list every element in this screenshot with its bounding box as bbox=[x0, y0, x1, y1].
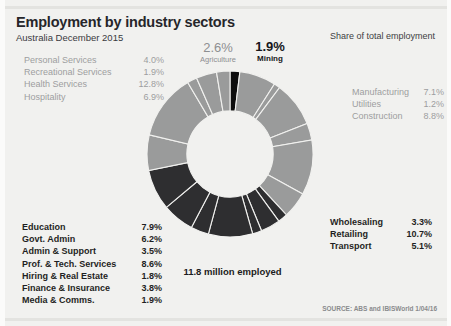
legend-group-trade: Wholesaling3.3%Retailing10.7%Transport5.… bbox=[330, 216, 432, 253]
legend-row-label: Hospitality bbox=[24, 91, 128, 103]
legend-row-label: Recreational Services bbox=[24, 66, 128, 78]
right-edge bbox=[447, 0, 451, 326]
legend-row-value: 1.9% bbox=[128, 294, 162, 306]
source-note: SOURCE: ABS and IBISWorld 1/04/16 bbox=[322, 305, 437, 312]
legend-row-value: 8.8% bbox=[410, 110, 444, 122]
legend-row-label: Utilities bbox=[352, 98, 410, 110]
legend-row-label: Transport bbox=[330, 240, 396, 252]
legend-row: Admin & Support3.5% bbox=[22, 245, 162, 257]
legend-row: Hiring & Real Estate1.8% bbox=[22, 270, 162, 282]
legend-row-value: 10.7% bbox=[396, 228, 432, 240]
legend-row-value: 7.1% bbox=[410, 86, 444, 98]
callout-agriculture-value: 2.6% bbox=[188, 40, 248, 55]
legend-row-label: Hiring & Real Estate bbox=[22, 270, 128, 282]
legend-row-value: 4.0% bbox=[128, 54, 164, 66]
legend-row: Manufacturing7.1% bbox=[352, 86, 444, 98]
callout-mining-label: Mining bbox=[246, 54, 294, 64]
legend-row-label: Media & Comms. bbox=[22, 294, 128, 306]
callout-agriculture: 2.6% Agriculture bbox=[188, 40, 248, 65]
callout-mining-value: 1.9% bbox=[246, 39, 294, 54]
infographic-panel: Employment by industry sectors Australia… bbox=[0, 0, 451, 326]
left-edge bbox=[0, 0, 5, 326]
legend-row-label: Admin & Support bbox=[22, 245, 128, 257]
legend-row-value: 5.1% bbox=[396, 240, 432, 252]
legend-row-label: Education bbox=[22, 221, 128, 233]
legend-row-value: 1.2% bbox=[410, 98, 444, 110]
legend-row: Govt. Admin6.2% bbox=[22, 233, 162, 245]
legend-group-industrial: Manufacturing7.1%Utilities1.2%Constructi… bbox=[352, 86, 444, 123]
page-subtitle: Australia December 2015 bbox=[16, 32, 123, 43]
legend-row: Education7.9% bbox=[22, 221, 162, 233]
legend-row-label: Health Services bbox=[24, 78, 128, 90]
legend-group-services: Personal Services4.0%Recreational Servic… bbox=[24, 54, 164, 103]
legend-row: Wholesaling3.3% bbox=[330, 216, 432, 228]
legend-row-label: Manufacturing bbox=[352, 86, 410, 98]
legend-row-value: 3.5% bbox=[128, 245, 162, 257]
legend-group-services-dark: Education7.9%Govt. Admin6.2%Admin & Supp… bbox=[22, 221, 162, 306]
donut-chart bbox=[146, 70, 314, 238]
legend-row: Construction8.8% bbox=[352, 110, 444, 122]
total-employed-caption: 11.8 million employed bbox=[150, 266, 315, 277]
legend-row-value: 3.3% bbox=[396, 216, 432, 228]
legend-row: Health Services12.8% bbox=[24, 78, 164, 90]
legend-row: Recreational Services1.9% bbox=[24, 66, 164, 78]
legend-row: Prof. & Tech. Services8.6% bbox=[22, 258, 162, 270]
share-of-total-employment-header: Share of total employment bbox=[330, 31, 435, 41]
callout-mining: 1.9% Mining bbox=[246, 39, 294, 64]
legend-row: Utilities1.2% bbox=[352, 98, 444, 110]
legend-row-label: Construction bbox=[352, 110, 410, 122]
legend-row-value: 3.8% bbox=[128, 282, 162, 294]
legend-row-label: Prof. & Tech. Services bbox=[22, 258, 128, 270]
page-title: Employment by industry sectors bbox=[16, 14, 235, 30]
callout-agriculture-label: Agriculture bbox=[188, 55, 248, 65]
top-divider bbox=[0, 6, 451, 9]
legend-row-label: Retailing bbox=[330, 228, 396, 240]
bottom-divider bbox=[0, 318, 451, 321]
legend-row: Hospitality6.9% bbox=[24, 91, 164, 103]
legend-row: Media & Comms.1.9% bbox=[22, 294, 162, 306]
legend-row: Retailing10.7% bbox=[330, 228, 432, 240]
donut-chart-svg bbox=[146, 70, 314, 238]
legend-row: Personal Services4.0% bbox=[24, 54, 164, 66]
legend-row-label: Wholesaling bbox=[330, 216, 396, 228]
legend-row: Transport5.1% bbox=[330, 240, 432, 252]
legend-row-label: Govt. Admin bbox=[22, 233, 128, 245]
legend-row-label: Finance & Insurance bbox=[22, 282, 128, 294]
legend-row-label: Personal Services bbox=[24, 54, 128, 66]
legend-row: Finance & Insurance3.8% bbox=[22, 282, 162, 294]
